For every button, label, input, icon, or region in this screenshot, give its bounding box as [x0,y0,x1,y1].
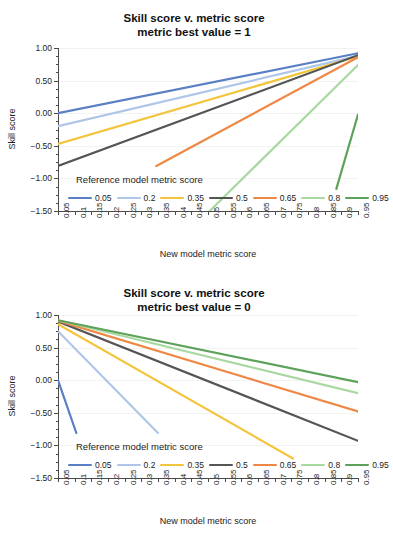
series-line-0.05 [58,380,76,433]
data-lines [0,275,388,551]
series-line-0.65 [58,321,358,412]
legend-swatch-icon [209,197,233,199]
legend-label: 0.5 [236,193,248,203]
legend-label: 0.2 [144,193,156,203]
legend-label: 0.2 [144,460,156,470]
legend-label: 0.5 [236,460,248,470]
legend-title: Reference model metric score [76,174,203,185]
legend-swatch-icon [301,197,325,199]
legend-swatch-icon [68,464,92,466]
chart-bottom: Skill score v. metric score metric best … [0,275,388,551]
legend-label: 0.05 [95,193,112,203]
legend-item-0.95[interactable]: 0.95 [345,460,393,470]
legend-swatch-icon [117,197,141,199]
legend-swatch-icon [345,464,369,466]
legend-label: 0.8 [328,193,340,203]
series-line-0.95 [336,115,358,189]
legend-swatch-icon [160,464,184,466]
legend-item-0.8[interactable]: 0.8 [301,460,345,470]
legend-label: 0.65 [280,193,297,203]
legend-label: 0.8 [328,460,340,470]
legend-label: 0.95 [372,193,389,203]
legend-item-0.8[interactable]: 0.8 [301,193,345,203]
series-line-0.95 [58,320,358,382]
data-lines [0,0,388,276]
legend-swatch-icon [117,464,141,466]
legend-item-0.2[interactable]: 0.2 [117,460,161,470]
legend-swatch-icon [209,464,233,466]
legend-label: 0.95 [372,460,389,470]
legend-swatch-icon [160,197,184,199]
series-line-0.2 [58,56,358,126]
plot-wrap-bottom: 1.000.500.00−0.50−1.00−1.500.050.10.150.… [0,275,388,551]
legend-item-0.5[interactable]: 0.5 [209,460,253,470]
legend-item-0.5[interactable]: 0.5 [209,193,253,203]
legend-label: 0.05 [95,460,112,470]
legend-item-0.65[interactable]: 0.65 [253,193,302,203]
legend-item-0.95[interactable]: 0.95 [345,193,393,203]
legend-item-0.35[interactable]: 0.35 [160,460,209,470]
legend-item-0.05[interactable]: 0.05 [68,193,117,203]
legend-swatch-icon [253,197,277,199]
legend-swatch-icon [253,464,277,466]
legend-item-0.65[interactable]: 0.65 [253,460,302,470]
legend-item-0.2[interactable]: 0.2 [117,193,161,203]
legend-label: 0.65 [280,460,297,470]
legend-swatch-icon [301,464,325,466]
legend-label: 0.35 [187,193,204,203]
legend[interactable]: 0.050.20.350.50.650.80.95 [68,460,393,470]
legend[interactable]: 0.050.20.350.50.650.80.95 [68,193,393,203]
plot-wrap-top: 1.000.500.00−0.50−1.00−1.500.050.10.150.… [0,0,388,276]
chart-top: Skill score v. metric score metric best … [0,0,388,275]
legend-swatch-icon [345,197,369,199]
legend-label: 0.35 [187,460,204,470]
legend-item-0.05[interactable]: 0.05 [68,460,117,470]
legend-title: Reference model metric score [76,441,203,452]
legend-item-0.35[interactable]: 0.35 [160,193,209,203]
legend-swatch-icon [68,197,92,199]
series-line-0.35 [58,56,358,143]
series-line-0.05 [58,53,358,113]
